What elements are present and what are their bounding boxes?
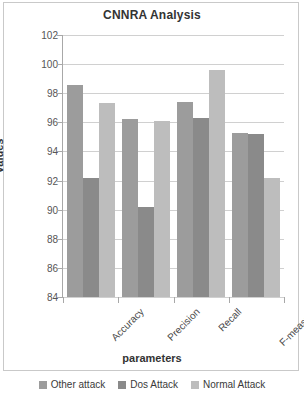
y-axis-tick-labels: 1021009896949290888684 [14,35,58,297]
plot-area [63,35,284,297]
bar-group [118,35,173,297]
y-tick-mark [57,297,62,298]
y-tick-label: 98 [20,88,58,99]
bar-recall-normal-attack [209,70,225,297]
x-tick-mark [284,297,285,303]
chart-legend: Other attackDos AttackNormal Attack [0,379,304,390]
legend-swatch-icon [118,381,126,389]
bar-f-measure-normal-attack [264,178,280,297]
legend-swatch-icon [191,381,199,389]
y-tick-label: 102 [20,30,58,41]
bar-recall-other-attack [177,102,193,297]
y-tick-label: 94 [20,146,58,157]
bar-f-measure-dos-attack [248,134,264,297]
legend-label: Normal Attack [203,379,265,390]
legend-item-normal-attack[interactable]: Normal Attack [191,379,265,390]
legend-swatch-icon [39,381,47,389]
x-axis-title: parameters [0,352,304,364]
x-tick-mark [174,297,175,303]
legend-label: Dos Attack [130,379,178,390]
chart-title: CNNRA Analysis [0,8,304,22]
bar-precision-normal-attack [154,121,170,297]
bar-accuracy-dos-attack [83,178,99,297]
y-tick-label: 84 [20,292,58,303]
bar-precision-dos-attack [138,207,154,297]
x-tick-mark [229,297,230,303]
bar-group [229,35,284,297]
bar-precision-other-attack [122,119,138,297]
bar-group [174,35,229,297]
y-tick-label: 92 [20,175,58,186]
legend-item-dos-attack[interactable]: Dos Attack [118,379,178,390]
y-tick-mark [57,151,62,152]
y-tick-label: 86 [20,262,58,273]
legend-item-other-attack[interactable]: Other attack [39,379,105,390]
y-tick-label: 100 [20,59,58,70]
y-tick-mark [57,181,62,182]
legend-label: Other attack [51,379,105,390]
y-axis-title: Values [0,139,5,174]
bar-group [63,35,118,297]
y-tick-label: 90 [20,204,58,215]
y-tick-mark [57,64,62,65]
y-tick-mark [57,268,62,269]
y-tick-label: 96 [20,117,58,128]
bar-f-measure-other-attack [232,133,248,297]
x-tick-mark [118,297,119,303]
bar-accuracy-normal-attack [99,103,115,297]
y-tick-mark [57,239,62,240]
x-tick-mark [63,297,64,303]
y-tick-label: 88 [20,233,58,244]
y-tick-mark [57,93,62,94]
y-tick-mark [57,35,62,36]
y-tick-mark [57,122,62,123]
y-tick-mark [57,210,62,211]
bar-accuracy-other-attack [67,85,83,298]
bar-recall-dos-attack [193,118,209,297]
